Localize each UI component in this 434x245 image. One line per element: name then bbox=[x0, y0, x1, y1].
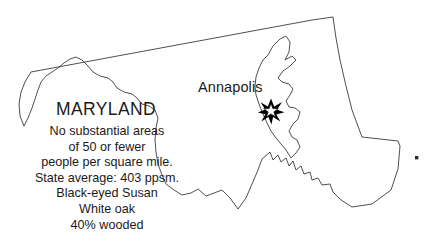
fact-line: people per square mile. bbox=[0, 155, 214, 171]
capital-city-label: Annapolis bbox=[198, 80, 263, 95]
maryland-map-figure: MARYLAND Annapolis No substantial areas … bbox=[0, 0, 434, 245]
fact-line: State average: 403 ppsm. bbox=[0, 171, 214, 187]
fact-line: No substantial areas bbox=[0, 124, 214, 140]
state-name-label: MARYLAND bbox=[0, 101, 212, 119]
state-facts-block: No substantial areas of 50 or fewer peop… bbox=[0, 124, 214, 233]
fact-line: 40% wooded bbox=[0, 218, 214, 234]
fact-line: White oak bbox=[0, 202, 214, 218]
fact-line: Black-eyed Susan bbox=[0, 186, 214, 202]
offshore-island-dot bbox=[415, 156, 418, 159]
fact-line: of 50 or fewer bbox=[0, 140, 214, 156]
